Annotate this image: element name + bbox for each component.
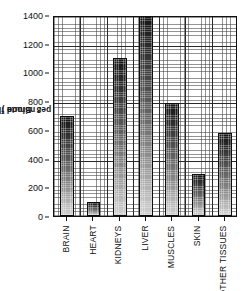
blood-flow-bar-chart: Blood flow (cm3 per minute ) 02004006008… bbox=[0, 0, 247, 291]
x-axis-tick-labels: BRAINHEARTKIDNEYSLIVERMUSCLESSKINOTHER T… bbox=[53, 217, 237, 291]
y-tick-mark bbox=[45, 102, 49, 103]
bar-skin bbox=[192, 174, 206, 216]
bar-kidneys bbox=[113, 58, 127, 216]
x-tick-label-skin: SKIN bbox=[184, 217, 210, 289]
y-tick-label: 1000 bbox=[23, 68, 43, 78]
y-tick-mark bbox=[45, 188, 49, 189]
x-tick-label-text: OTHER TISSUES bbox=[219, 225, 229, 291]
gridline-vertical bbox=[107, 17, 108, 216]
gridline-vertical bbox=[80, 17, 81, 216]
y-tick-label: 400 bbox=[28, 155, 43, 165]
x-tick-label-brain: BRAIN bbox=[53, 217, 79, 289]
x-tick-label-text: KIDNEYS bbox=[114, 225, 124, 264]
x-tick-label-text: SKIN bbox=[193, 225, 203, 246]
y-tick-label: 200 bbox=[28, 183, 43, 193]
y-axis-title: Blood flow (cm3 per minute ) bbox=[0, 0, 20, 220]
x-tick-label-text: LIVER bbox=[140, 225, 150, 251]
y-tick-mark bbox=[45, 44, 49, 45]
x-tick-label-kidneys: KIDNEYS bbox=[106, 217, 132, 289]
y-tick-mark bbox=[45, 16, 49, 17]
bar-heart bbox=[87, 202, 101, 216]
bar-liver bbox=[139, 16, 153, 216]
gridline-vertical bbox=[185, 17, 186, 216]
x-tick-label-liver: LIVER bbox=[132, 217, 158, 289]
x-tick-label-text: MUSCLES bbox=[166, 225, 176, 268]
y-tick-label: 800 bbox=[28, 97, 43, 107]
y-tick-mark bbox=[45, 159, 49, 160]
gridline-vertical bbox=[133, 17, 134, 216]
plot-area bbox=[53, 16, 237, 217]
x-tick-label-other-tissues: OTHER TISSUES bbox=[211, 217, 237, 289]
y-tick-label: 0 bbox=[38, 212, 43, 222]
gridline-vertical bbox=[159, 17, 160, 216]
y-tick-mark bbox=[45, 73, 49, 74]
x-tick-label-muscles: MUSCLES bbox=[158, 217, 184, 289]
y-axis-tick-labels: 0200400600800100012001400 bbox=[18, 0, 49, 225]
y-tick-label: 1200 bbox=[23, 40, 43, 50]
y-tick-mark bbox=[45, 217, 49, 218]
x-tick-label-heart: HEART bbox=[79, 217, 105, 289]
x-tick-label-text: HEART bbox=[87, 225, 97, 255]
bar-muscles bbox=[165, 103, 179, 216]
y-tick-mark bbox=[45, 130, 49, 131]
bar-other-tissues bbox=[218, 133, 232, 216]
bar-brain bbox=[60, 116, 74, 217]
y-tick-label: 600 bbox=[28, 126, 43, 136]
gridline-vertical bbox=[212, 17, 213, 216]
x-tick-label-text: BRAIN bbox=[61, 225, 71, 252]
y-tick-label: 1400 bbox=[23, 11, 43, 21]
